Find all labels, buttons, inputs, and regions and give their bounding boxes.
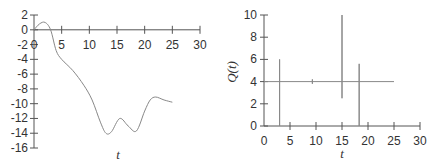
left-x-tick-label: 10 (83, 38, 97, 52)
left-x-tick-label: 30 (193, 38, 207, 52)
left-y-tick-label: -10 (11, 97, 29, 111)
left-chart: 20-2-4-6-8-10-12-14-16 051015202530 t (11, 8, 207, 162)
right-y-tick-label: 8 (250, 30, 257, 44)
right-y-tick-label: 10 (244, 8, 258, 22)
right-x-tick-label: 10 (309, 134, 323, 148)
left-y-tick-label: 2 (21, 8, 28, 22)
right-x-tick-label: 5 (287, 134, 294, 148)
right-x-tick-label: 30 (413, 134, 427, 148)
left-series-line (34, 22, 172, 134)
left-x-tick-label: 25 (166, 38, 180, 52)
left-x-tick-label: 0 (31, 38, 38, 52)
left-y-tick-label: -16 (11, 141, 29, 155)
figure: 20-2-4-6-8-10-12-14-16 051015202530 t 02… (0, 0, 439, 163)
right-x-tick-label: 20 (361, 134, 375, 148)
left-y-tick-label: -6 (17, 67, 28, 81)
right-chart: 0246810 051015202530 Q(t) t (224, 8, 427, 161)
left-y-tick-label: -12 (11, 111, 29, 125)
left-x-axis-label: t (116, 147, 120, 162)
right-y-tick-label: 6 (250, 52, 257, 66)
right-x-tick-label: 25 (387, 134, 401, 148)
left-y-tick-label: -2 (17, 38, 28, 52)
right-y-tick-label: 4 (250, 75, 257, 89)
right-series-line (264, 15, 394, 126)
left-y-tick-label: -4 (17, 52, 28, 66)
left-x-tick-label: 15 (110, 38, 124, 52)
right-y-tick-label: 0 (250, 119, 257, 133)
left-x-tick-label: 5 (58, 38, 65, 52)
left-y-tick-label: 0 (21, 23, 28, 37)
left-y-tick-label: -14 (11, 126, 29, 140)
left-y-tick-label: -8 (17, 82, 28, 96)
right-y-tick-label: 2 (250, 97, 257, 111)
left-x-tick-label: 20 (138, 38, 152, 52)
right-x-tick-label: 0 (261, 134, 268, 148)
right-x-axis-label: t (340, 146, 344, 161)
right-y-axis-label: Q(t) (224, 61, 239, 83)
